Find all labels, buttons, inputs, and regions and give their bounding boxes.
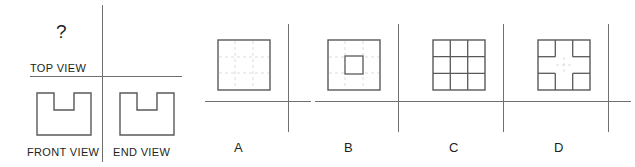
option-d-vertical-axis — [608, 24, 609, 132]
missing-top-view-question-mark: ? — [56, 22, 67, 41]
quadrant-vertical-divider — [102, 5, 103, 162]
option-c[interactable]: C — [420, 22, 526, 162]
option-a-horizontal-axis — [205, 101, 311, 102]
option-b-vertical-axis — [398, 24, 399, 132]
option-c-vertical-axis — [503, 24, 504, 132]
end-view-figure — [119, 92, 175, 136]
three-by-three-grid-square-icon — [432, 39, 488, 91]
option-a-vertical-axis — [288, 24, 289, 132]
option-a[interactable]: A — [205, 22, 311, 162]
quadrant-horizontal-divider — [30, 76, 182, 77]
option-b-horizontal-axis — [315, 101, 421, 102]
top-view-label: TOP VIEW — [30, 62, 86, 75]
front-view-figure — [36, 92, 92, 136]
front-view-label: FRONT VIEW — [27, 146, 99, 159]
problem-panel: ? TOP VIEW FRONT VIEW — [0, 0, 195, 167]
option-b[interactable]: B — [315, 22, 421, 162]
option-d-letter: D — [554, 140, 635, 155]
square-with-centered-small-square-icon — [327, 39, 383, 91]
option-d-horizontal-axis — [525, 101, 631, 102]
option-c-horizontal-axis — [420, 101, 526, 102]
square-with-plus-shaped-gap-icon — [537, 39, 593, 91]
end-view-label: END VIEW — [113, 146, 170, 159]
option-d[interactable]: D — [525, 22, 631, 162]
plain-square-with-hidden-construction-lines-icon — [217, 39, 273, 91]
